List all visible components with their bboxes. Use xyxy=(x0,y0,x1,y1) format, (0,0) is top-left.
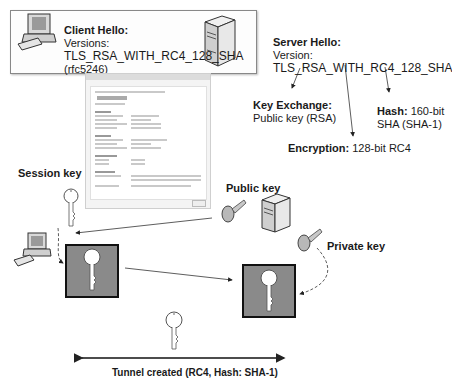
tunnel-key-icon xyxy=(0,0,436,385)
